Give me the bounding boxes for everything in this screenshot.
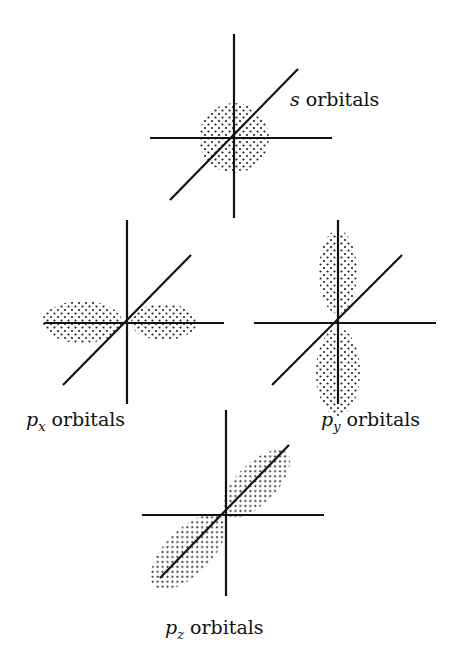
label-variable: p	[26, 408, 38, 430]
pz-orbitals-label: pz orbitals	[165, 616, 264, 642]
pz-lobe-bottom	[138, 502, 238, 602]
label-variable: s	[290, 88, 300, 110]
label-text: orbitals	[300, 88, 380, 110]
px-orbital-diagram	[42, 220, 224, 404]
label-subscript: x	[38, 419, 45, 434]
s-orbitals-label: s orbitals	[290, 88, 379, 110]
label-variable: p	[321, 408, 333, 430]
orbital-diagrams	[0, 0, 462, 662]
py-orbitals-label: py orbitals	[321, 408, 420, 434]
label-text: orbitals	[46, 408, 126, 430]
label-text: orbitals	[184, 616, 264, 638]
py-orbital-diagram	[254, 220, 436, 416]
label-subscript: z	[177, 627, 184, 642]
label-subscript: y	[333, 419, 340, 434]
pz-orbital-diagram	[138, 410, 324, 602]
label-variable: p	[165, 616, 177, 638]
s-orbital-diagram	[150, 34, 332, 218]
px-orbitals-label: px orbitals	[26, 408, 125, 434]
label-text: orbitals	[341, 408, 421, 430]
